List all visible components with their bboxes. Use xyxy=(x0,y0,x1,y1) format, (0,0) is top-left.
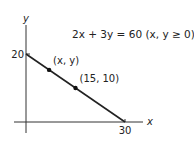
x-tick-label: 30 xyxy=(119,125,132,136)
x-axis-label: x xyxy=(146,116,153,127)
point-marker xyxy=(73,86,77,90)
y-tick-label: 20 xyxy=(11,49,24,60)
point-label: (x, y) xyxy=(53,55,79,66)
marked-points: (x, y)(15, 10) xyxy=(47,55,119,90)
point-label: (15, 10) xyxy=(80,73,120,84)
y-axis-label: y xyxy=(22,13,30,24)
chart: x y 3020 (x, y)(15, 10) 2x + 3y = 60 (x,… xyxy=(0,0,194,145)
equation-annotation: 2x + 3y = 60 (x, y ≥ 0) xyxy=(72,28,194,40)
point-marker xyxy=(47,68,51,72)
